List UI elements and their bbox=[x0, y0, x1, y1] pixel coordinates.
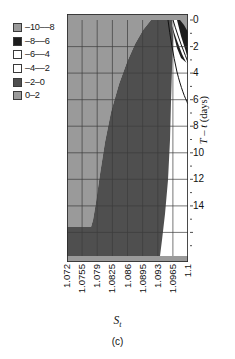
x-tick-label: 1.0895 bbox=[138, 264, 148, 293]
legend-item-label: –8–­–6 bbox=[25, 37, 50, 46]
legend-swatch-icon bbox=[13, 23, 22, 32]
x-tick-label: 1.086 bbox=[123, 264, 133, 288]
x-axis: 1.072 1.0755 1.079 1.0825 1.086 1.0895 1… bbox=[67, 264, 188, 310]
x-tick-label: 1.072 bbox=[62, 264, 72, 288]
figure-panel-c: –10–­–8 –8–­–6 –6–­–4 –4–­–2 –2–0 0–2 bbox=[0, 0, 235, 359]
legend-swatch-icon bbox=[13, 64, 22, 73]
x-tick-label: 1.0825 bbox=[108, 264, 118, 293]
legend-item-label: –4–­–2 bbox=[25, 64, 50, 73]
legend-item-label: –10–­–8 bbox=[25, 23, 54, 32]
legend-item-label: –6–­–4 bbox=[25, 50, 50, 59]
legend-item: –4–­–2 bbox=[13, 62, 71, 76]
x-axis-title: St bbox=[0, 314, 235, 329]
legend-swatch-icon bbox=[13, 78, 22, 87]
legend-item: –2–0 bbox=[13, 75, 71, 89]
legend-item: –6–­–4 bbox=[13, 48, 71, 62]
panel-bottom-strip bbox=[67, 256, 188, 262]
legend-swatch-icon bbox=[13, 50, 22, 59]
legend-item: –10–­–8 bbox=[13, 21, 71, 35]
x-tick-label: 1.093 bbox=[153, 264, 163, 288]
legend-item: –8–­–6 bbox=[13, 35, 71, 49]
x-tick-label: 1.0755 bbox=[77, 264, 87, 293]
chart-legend: –10–­–8 –8–­–6 –6–­–4 –4–­–2 –2–0 0–2 bbox=[13, 21, 71, 103]
heatmap-svg bbox=[67, 14, 188, 262]
legend-item: 0–2 bbox=[13, 89, 71, 103]
legend-swatch-icon bbox=[13, 91, 22, 100]
x-tick-label: 1.1 bbox=[183, 264, 193, 277]
figure-caption: (c) bbox=[0, 336, 235, 347]
y-axis-title: T – t (days) bbox=[198, 96, 209, 144]
x-axis-title-subscript: t bbox=[119, 320, 121, 329]
x-tick-label: 1.079 bbox=[92, 264, 102, 288]
legend-swatch-icon bbox=[13, 37, 22, 46]
legend-item-label: –2–0 bbox=[25, 78, 45, 87]
panel-top-strip bbox=[67, 14, 188, 20]
plot-area bbox=[67, 14, 188, 262]
legend-item-label: 0–2 bbox=[25, 91, 40, 100]
x-tick-label: 1.0965 bbox=[168, 264, 178, 293]
